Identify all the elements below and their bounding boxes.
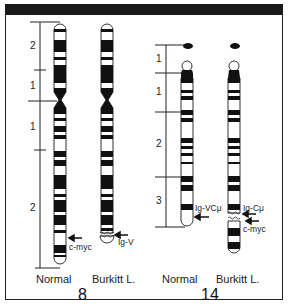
chr8-normal-gene-label: c-myc (69, 242, 92, 252)
chr14-igvcmu-arrow (195, 214, 209, 220)
chr14-normal-label: Normal (162, 273, 197, 285)
chr8-normal-label: Normal (36, 273, 71, 285)
chr14-region-q3: 3 (156, 195, 162, 206)
chr8-burkitt-gene-label: Ig-V (118, 237, 134, 247)
chr8-burkitt (100, 24, 114, 243)
chr8-region-q2: 2 (30, 202, 36, 213)
chr14-number-label: 14 (201, 286, 219, 304)
chr8-burkitt-label: Burkitt L. (92, 273, 135, 285)
chr8-normal (54, 24, 66, 264)
chr14-normal (181, 43, 193, 226)
chr14-burkitt (228, 43, 240, 253)
chr8-region-p1: 1 (30, 80, 36, 91)
chr8-number-label: 8 (78, 286, 87, 304)
chr14-burkitt-gene-upper-label: Ig-Cμ (243, 203, 264, 213)
chr8-region-q1: 1 (30, 121, 36, 132)
chr14-burkitt-label: Burkitt L. (216, 273, 259, 285)
chr8-cmyc-arrow (69, 235, 82, 241)
chr14-region-q1: 1 (156, 86, 162, 97)
chr8-region-p2: 2 (30, 40, 36, 51)
chr14-normal-gene-label: Ig-VCμ (195, 203, 222, 213)
chr14-region-p1: 1 (156, 53, 162, 64)
chromosome-diagram (0, 0, 290, 307)
chr14-burkitt-gene-lower-label: c-myc (243, 224, 266, 234)
chr14-region-q2: 2 (156, 138, 162, 149)
